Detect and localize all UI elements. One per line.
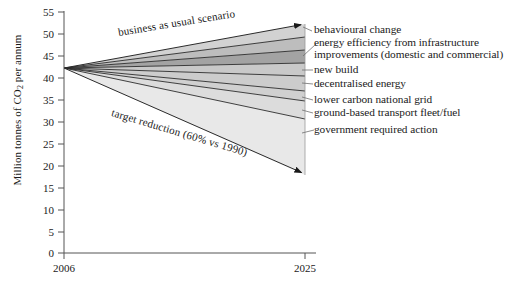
y-tick-10: 10: [28, 204, 54, 216]
y-tick-40: 40: [28, 72, 54, 84]
y-tick-15: 15: [28, 182, 54, 194]
x-tick-2006: 2006: [39, 262, 89, 274]
x-tick-2025: 2025: [280, 262, 330, 274]
y-tick-45: 45: [28, 50, 54, 62]
y-tick-50: 50: [28, 28, 54, 40]
chart-canvas: Million tonnes of CO2 per annum: [0, 0, 517, 288]
legend-item-energy-efficiency: energy efficiency from infrastructure im…: [314, 37, 514, 60]
legend-item-new-build: new build: [314, 64, 358, 76]
legend-item-behavioural-change: behavioural change: [314, 24, 401, 36]
y-tick-25: 25: [28, 138, 54, 150]
legend-item-government-action: government required action: [314, 124, 438, 136]
y-tick-5: 5: [28, 226, 54, 238]
legend-item-lower-carbon-grid: lower carbon national grid: [314, 94, 432, 106]
x-axis-ticks: [64, 253, 305, 259]
y-tick-0: 0: [28, 247, 54, 259]
y-tick-30: 30: [28, 116, 54, 128]
legend-item-ground-transport: ground-based transport fleet/fuel: [314, 107, 460, 119]
y-tick-20: 20: [28, 160, 54, 172]
y-tick-35: 35: [28, 94, 54, 106]
y-tick-55: 55: [28, 6, 54, 18]
y-axis-ticks: [58, 12, 64, 253]
legend-item-decentralised-energy: decentralised energy: [314, 78, 406, 90]
wedge-bands: [64, 24, 305, 175]
